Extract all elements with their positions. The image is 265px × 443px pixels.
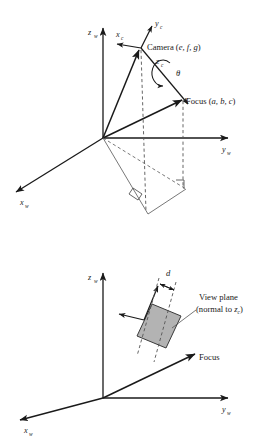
origin-to-focus-vector bbox=[103, 100, 182, 138]
svg-text:(normal to zc): (normal to zc) bbox=[196, 304, 243, 315]
svg-text:y: y bbox=[154, 19, 159, 28]
svg-text:y: y bbox=[221, 145, 226, 154]
z-camera-axis-label: z c bbox=[155, 57, 164, 68]
svg-text:z: z bbox=[87, 28, 92, 37]
svg-text:z: z bbox=[155, 57, 160, 66]
ground-projection-dashed-a bbox=[103, 138, 186, 189]
svg-text:c: c bbox=[121, 35, 124, 41]
right-angle-marker-left bbox=[129, 188, 142, 200]
origin-to-camera-vector bbox=[103, 50, 139, 138]
svg-text:w: w bbox=[29, 431, 33, 437]
svg-text:x: x bbox=[115, 30, 120, 39]
svg-text:x: x bbox=[23, 426, 28, 435]
svg-text:w: w bbox=[227, 150, 231, 156]
distance-label: d bbox=[166, 268, 171, 278]
distance-indicator-right bbox=[160, 284, 174, 290]
y-world-axis-label: y w bbox=[221, 145, 231, 156]
svg-text:c: c bbox=[161, 62, 164, 68]
svg-text:Focus (a, b, c): Focus (a, b, c) bbox=[186, 96, 236, 106]
svg-text:w: w bbox=[94, 33, 98, 39]
x-world-axis-label: x w bbox=[19, 198, 29, 209]
svg-text:Camera (e, f, g): Camera (e, f, g) bbox=[147, 42, 201, 52]
svg-text:View plane: View plane bbox=[199, 292, 238, 302]
camera-label: Camera (e, f, g) bbox=[147, 42, 201, 52]
svg-text:w: w bbox=[25, 203, 29, 209]
camera-to-focus-vector bbox=[103, 354, 195, 398]
svg-text:y: y bbox=[221, 405, 226, 414]
camera-focus-diagram: z w y w x w x c y c z c bbox=[0, 0, 265, 228]
x-camera-axis-line bbox=[117, 44, 141, 48]
svg-text:c: c bbox=[160, 24, 163, 30]
camera-projection-dashed bbox=[141, 50, 146, 212]
svg-text:z: z bbox=[87, 273, 92, 282]
theta-label: θ bbox=[176, 68, 181, 78]
view-plane-diagram: z w y w x w d View plane (normal to zc) bbox=[0, 228, 265, 443]
camera-focus-panel: z w y w x w x c y c z c bbox=[0, 0, 265, 228]
figure-root: z w y w x w x c y c z c bbox=[0, 0, 265, 443]
z-world-axis-label: z w bbox=[87, 273, 98, 284]
ground-line-to-camera-foot bbox=[103, 138, 148, 214]
x-camera-axis-label: x c bbox=[115, 30, 124, 41]
svg-text:x: x bbox=[19, 198, 24, 207]
svg-text:w: w bbox=[227, 410, 231, 416]
z-world-axis-label: z w bbox=[87, 28, 98, 39]
x-camera-axis-line bbox=[119, 314, 144, 320]
svg-text:w: w bbox=[94, 278, 98, 284]
ground-line-camera-foot-to-focus-foot bbox=[148, 189, 186, 214]
z-camera-axis-line bbox=[141, 48, 188, 104]
view-plane-panel: z w y w x w d View plane (normal to zc) bbox=[0, 228, 265, 443]
x-world-axis-label: x w bbox=[23, 426, 33, 437]
focus-label: Focus (a, b, c) bbox=[186, 96, 236, 106]
x-world-axis-line bbox=[16, 138, 103, 192]
y-camera-axis-label: y c bbox=[154, 19, 163, 30]
y-world-axis-label: y w bbox=[221, 405, 231, 416]
focus-label: Focus bbox=[199, 352, 220, 362]
view-plane-label: View plane (normal to zc) bbox=[196, 292, 243, 315]
x-world-axis-line bbox=[20, 398, 103, 420]
